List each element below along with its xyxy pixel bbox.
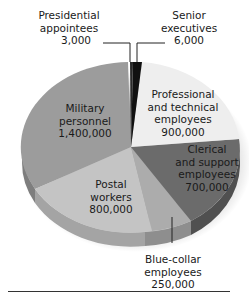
label-presidential-line2: appointees — [26, 22, 112, 35]
label-bluecollar-value: 250,000 — [140, 278, 206, 291]
label-clerical: Clerical and support employees 700,000 — [164, 143, 249, 193]
label-military-line1: Military — [50, 102, 120, 115]
label-bluecollar-line1: Blue-collar — [140, 253, 206, 266]
label-postal-line1: Postal — [80, 178, 142, 191]
label-presidential: Presidential appointees 3,000 — [26, 9, 112, 47]
label-clerical-line3: employees — [164, 168, 249, 181]
label-clerical-line1: Clerical — [164, 143, 249, 156]
label-presidential-line1: Presidential — [26, 9, 112, 22]
label-postal-line2: workers — [80, 191, 142, 204]
label-professional-line2: and technical — [138, 101, 228, 114]
label-professional: Professional and technical employees 900… — [138, 88, 228, 138]
label-postal: Postal workers 800,000 — [80, 178, 142, 216]
bottom-rule — [8, 291, 230, 292]
label-clerical-line2: and support — [164, 156, 249, 169]
label-professional-line1: Professional — [138, 88, 228, 101]
label-professional-value: 900,000 — [138, 126, 228, 139]
label-senior-line1: Senior — [158, 9, 220, 22]
label-senior: Senior executives 6,000 — [158, 9, 220, 47]
label-professional-line3: employees — [138, 113, 228, 126]
label-military-value: 1,400,000 — [50, 127, 120, 140]
label-clerical-value: 700,000 — [164, 181, 249, 194]
label-military-line2: personnel — [50, 115, 120, 128]
label-bluecollar-line2: employees — [140, 266, 206, 279]
label-senior-value: 6,000 — [158, 34, 220, 47]
label-military: Military personnel 1,400,000 — [50, 102, 120, 140]
label-bluecollar: Blue-collar employees 250,000 — [140, 253, 206, 291]
label-postal-value: 800,000 — [80, 203, 142, 216]
label-presidential-value: 3,000 — [26, 34, 112, 47]
label-senior-line2: executives — [158, 22, 220, 35]
